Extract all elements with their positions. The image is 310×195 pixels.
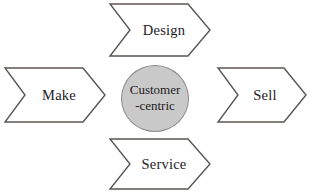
center-label-line-2: -centric: [135, 99, 175, 114]
center-circle-customer-centric[interactable]: Customer -centric: [121, 65, 189, 132]
arrow-label-design: Design: [143, 23, 185, 38]
arrow-label-service: Service: [142, 157, 187, 172]
arrow-shape-service[interactable]: Service: [108, 137, 212, 191]
arrow-shape-design[interactable]: Design: [108, 2, 212, 58]
arrow-label-make: Make: [42, 88, 76, 103]
arrow-shape-sell[interactable]: Sell: [216, 66, 308, 124]
arrow-label-sell: Sell: [253, 88, 276, 103]
arrow-shape-make[interactable]: Make: [3, 66, 107, 124]
center-label-line-1: Customer: [130, 83, 181, 98]
diagram-canvas: Design Make Customer -centric Sell Servi…: [0, 0, 310, 195]
